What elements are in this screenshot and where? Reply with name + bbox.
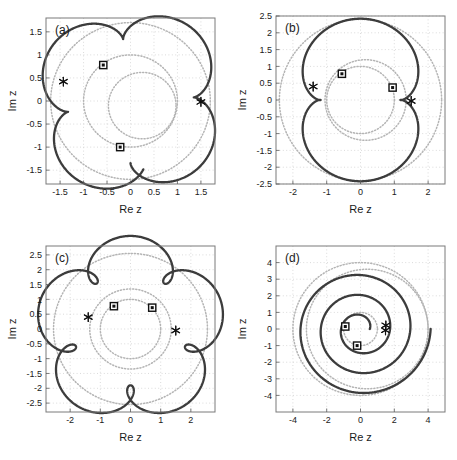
subplot-panel-a: -1.5-1-0.500.511.5-1.5-1-0.500.511.5Re z…	[0, 0, 229, 230]
x-tick-label: 0	[358, 187, 363, 197]
y-tick-label: 1	[267, 62, 272, 72]
x-axis-label: Re z	[349, 203, 372, 215]
x-tick-label: 1	[392, 187, 397, 197]
y-tick-label: -0.5	[256, 112, 272, 122]
x-tick-label: 1.5	[195, 187, 208, 197]
square-marker	[110, 303, 117, 310]
x-tick-label: 2	[426, 187, 431, 197]
x-tick-label: -4	[289, 415, 297, 425]
y-tick-label: 2	[267, 291, 272, 301]
data-curve	[303, 19, 419, 182]
y-tick-label: -3	[264, 374, 272, 384]
data-curve	[43, 16, 215, 188]
y-axis-label: Im z	[236, 319, 248, 340]
square-marker	[100, 61, 107, 68]
x-tick-label: 0.5	[148, 187, 161, 197]
y-tick-label: -4	[264, 391, 272, 401]
x-tick-label: 1	[158, 415, 163, 425]
y-tick-label: 0.5	[259, 78, 272, 88]
square-marker	[354, 342, 361, 349]
y-axis-label: Im z	[6, 319, 18, 340]
y-tick-label: 4	[267, 258, 272, 268]
y-tick-label: 0.5	[29, 309, 42, 319]
star-marker	[172, 326, 180, 335]
x-axis-label: Re z	[349, 431, 372, 443]
y-tick-label: -1	[34, 142, 42, 152]
y-tick-label: -1	[264, 129, 272, 139]
y-tick-label: 1.5	[29, 27, 42, 37]
y-tick-label: -0.5	[26, 119, 42, 129]
x-tick-label: -0.5	[99, 187, 115, 197]
x-tick-label: 0	[128, 187, 133, 197]
y-tick-label: -1.5	[256, 146, 272, 156]
x-tick-label: -1.5	[52, 187, 68, 197]
panel-label-d: (d)	[285, 251, 300, 265]
y-tick-label: 0	[267, 95, 272, 105]
data-curve	[300, 275, 430, 393]
x-tick-label: 2	[392, 415, 397, 425]
x-tick-label: -1	[323, 187, 331, 197]
y-tick-label: 0	[37, 324, 42, 334]
figure-canvas: -1.5-1-0.500.511.5-1.5-1-0.500.511.5Re z…	[0, 0, 457, 460]
x-tick-label: 4	[426, 415, 431, 425]
square-marker	[338, 70, 345, 77]
gridlines	[46, 18, 215, 184]
x-axis-label: Re z	[119, 431, 142, 443]
y-tick-label: 0	[267, 324, 272, 334]
panel-label-b: (b)	[285, 21, 300, 35]
x-tick-label: -1	[80, 187, 88, 197]
y-tick-label: -1	[264, 341, 272, 351]
y-tick-label: 2.5	[29, 250, 42, 260]
x-tick-label: 0	[128, 415, 133, 425]
gridlines	[276, 16, 445, 184]
subplot-panel-d: -4-2024-4-3-2-101234Re zIm z(d)	[228, 230, 457, 460]
y-tick-label: 1.5	[259, 45, 272, 55]
axis-ticks: -1.5-1-0.500.511.5-1.5-1-0.500.511.5	[26, 27, 207, 197]
panel-label-c: (c)	[55, 251, 69, 265]
y-tick-label: 0.5	[29, 73, 42, 83]
y-tick-label: -1	[34, 354, 42, 364]
subplot-panel-c: -2-1012-2.5-2-1.5-1-0.500.511.522.5Re zI…	[0, 230, 229, 460]
plot-area-a: -1.5-1-0.500.511.5-1.5-1-0.500.511.5Re z…	[0, 0, 229, 230]
subplot-panel-b: -2-1012-2.5-2-1.5-1-0.500.511.522.5Re zI…	[228, 0, 457, 230]
y-tick-label: 1	[37, 295, 42, 305]
square-marker	[342, 323, 349, 330]
star-marker	[60, 77, 68, 86]
x-tick-label: 2	[188, 415, 193, 425]
y-tick-label: -2	[264, 162, 272, 172]
y-tick-label: 3	[267, 274, 272, 284]
x-axis-label: Re z	[119, 203, 142, 215]
y-axis-label: Im z	[236, 90, 248, 111]
axis-ticks: -2-1012-2.5-2-1.5-1-0.500.511.522.5	[26, 250, 193, 425]
y-tick-label: 2	[37, 265, 42, 275]
square-marker	[389, 84, 396, 91]
y-tick-label: 1	[267, 308, 272, 318]
square-marker	[149, 304, 156, 311]
y-tick-label: 1	[37, 50, 42, 60]
y-tick-label: -0.5	[26, 339, 42, 349]
plot-area-c: -2-1012-2.5-2-1.5-1-0.500.511.522.5Re zI…	[0, 230, 229, 460]
x-tick-label: 0	[358, 415, 363, 425]
y-tick-label: 2.5	[259, 11, 272, 21]
y-tick-label: -2	[264, 357, 272, 367]
x-tick-label: -2	[66, 415, 74, 425]
square-marker	[117, 144, 124, 151]
panel-label-a: (a)	[55, 23, 70, 37]
y-tick-label: -2.5	[26, 398, 42, 408]
y-tick-label: -1.5	[26, 165, 42, 175]
y-axis-label: Im z	[6, 91, 18, 112]
x-tick-label: 1	[175, 187, 180, 197]
y-tick-label: -2	[34, 383, 42, 393]
y-tick-label: -2.5	[256, 179, 272, 189]
x-tick-label: -2	[323, 415, 331, 425]
y-tick-label: 1.5	[29, 280, 42, 290]
x-tick-label: -1	[96, 415, 104, 425]
plot-area-d: -4-2024-4-3-2-101234Re zIm z(d)	[228, 230, 457, 460]
y-tick-label: 0	[37, 96, 42, 106]
x-tick-label: -2	[289, 187, 297, 197]
y-tick-label: -1.5	[26, 369, 42, 379]
y-tick-label: 2	[267, 28, 272, 38]
plot-area-b: -2-1012-2.5-2-1.5-1-0.500.511.522.5Re zI…	[228, 0, 457, 230]
